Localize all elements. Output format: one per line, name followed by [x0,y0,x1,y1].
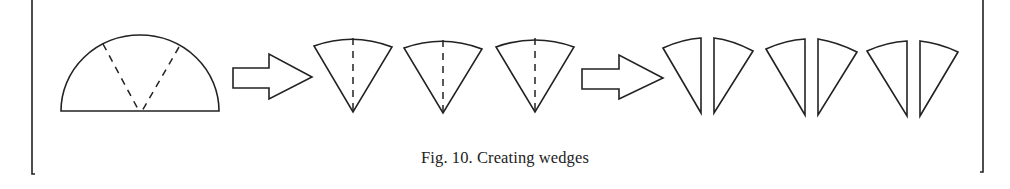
arrow-right-icon [582,55,663,99]
right-frame-line [980,0,983,172]
wedge-1 [314,38,392,112]
dashed-cut-line-left [103,44,139,111]
figure-caption: Fig. 10. Creating wedges [0,148,1010,168]
half-wedge-pair-2 [766,39,857,115]
wedge-2 [404,40,482,113]
wedge-3 [496,38,574,112]
half-wedge-pair-1 [663,38,753,113]
half-disc-shape [61,35,219,111]
half-wedge-pair-3 [867,41,958,116]
dashed-cut-line-right [142,47,179,111]
figure-creating-wedges: Fig. 10. Creating wedges [0,0,1010,189]
arrow-right-icon [233,54,312,99]
